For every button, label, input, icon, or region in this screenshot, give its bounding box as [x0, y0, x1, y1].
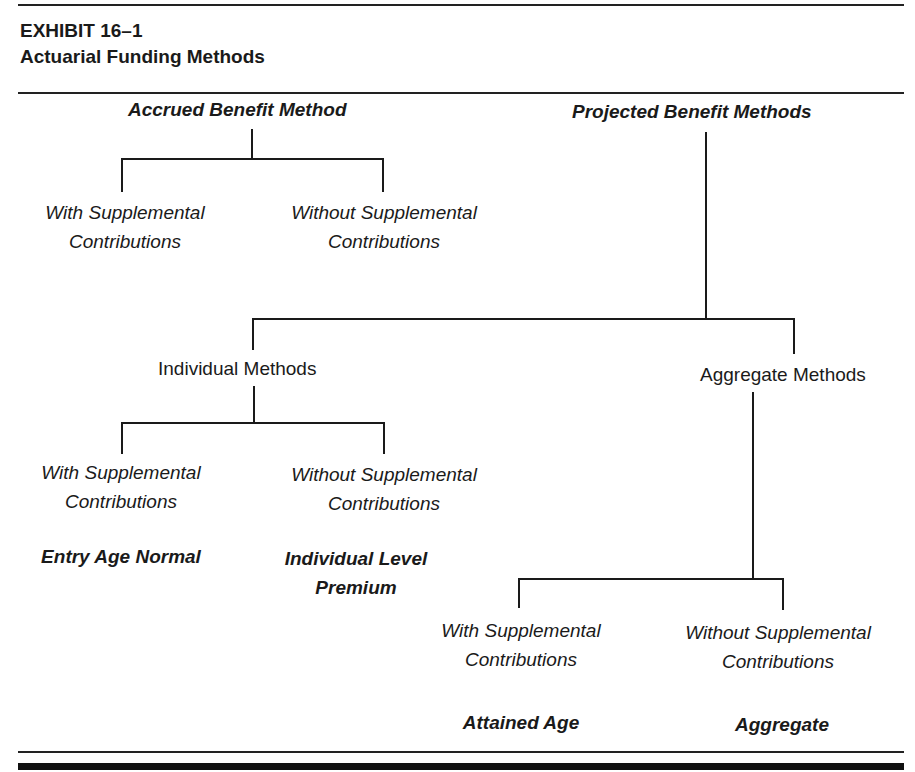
- connector: [793, 318, 795, 354]
- connector: [518, 578, 520, 608]
- connector: [121, 422, 385, 424]
- aggregate-methods-label: Aggregate Methods: [700, 364, 866, 386]
- aggregate: Aggregate: [666, 710, 898, 739]
- connector: [252, 318, 254, 350]
- footer-rule-thin: [18, 751, 904, 753]
- attained-age: Attained Age: [416, 708, 626, 737]
- individual-with-supplemental: With Supplemental Contributions: [16, 458, 226, 516]
- connector: [518, 578, 784, 580]
- aggregate-without-supplemental: Without Supplemental Contributions: [662, 618, 894, 676]
- connector: [252, 318, 795, 320]
- accrued-benefit-method-label: Accrued Benefit Method: [128, 99, 347, 121]
- connector: [382, 158, 384, 192]
- connector: [121, 422, 123, 454]
- footer-rule-thick: [18, 763, 904, 770]
- header-rule: [18, 92, 904, 94]
- individual-without-supplemental: Without Supplemental Contributions: [268, 460, 500, 518]
- exhibit-title: Actuarial Funding Methods: [20, 46, 265, 68]
- individual-methods-label: Individual Methods: [158, 358, 316, 380]
- exhibit-number: EXHIBIT 16–1: [20, 20, 143, 42]
- connector: [121, 158, 384, 160]
- accrued-with-supplemental: With Supplemental Contributions: [20, 198, 230, 256]
- entry-age-normal: Entry Age Normal: [16, 542, 226, 571]
- connector: [383, 422, 385, 454]
- individual-level-premium: Individual Level Premium: [240, 544, 472, 602]
- aggregate-with-supplemental: With Supplemental Contributions: [416, 616, 626, 674]
- connector: [251, 129, 253, 159]
- projected-benefit-methods-label: Projected Benefit Methods: [572, 101, 812, 123]
- accrued-without-supplemental: Without Supplemental Contributions: [268, 198, 500, 256]
- connector: [121, 158, 123, 192]
- connector: [752, 392, 754, 580]
- top-rule: [18, 4, 904, 6]
- connector: [705, 132, 707, 320]
- connector: [782, 578, 784, 610]
- connector: [253, 386, 255, 424]
